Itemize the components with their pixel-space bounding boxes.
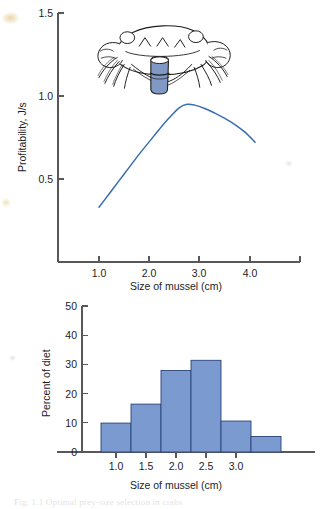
diet-histogram-svg: 50 40 30 20 10 0 Percent of diet 1.0 1.5 bbox=[0, 292, 329, 497]
x-ticklabel-2.0: 2.0 bbox=[142, 267, 157, 279]
histogram-bar bbox=[161, 371, 191, 452]
profitability-chart-svg: 1.5 1.0 0.5 Profitability, J/s 1.0 2.0 3… bbox=[0, 0, 329, 292]
x-ticklabel-1.0: 1.0 bbox=[92, 267, 107, 279]
y-ticklabel-30: 30 bbox=[65, 358, 77, 370]
histogram-bar bbox=[101, 423, 131, 452]
x-ticklabel-3.0: 3.0 bbox=[192, 267, 207, 279]
x-ticklabel-3.0: 3.0 bbox=[229, 460, 244, 472]
diet-x-axis-title: Size of mussel (cm) bbox=[130, 479, 222, 491]
x-ticklabel-1.0: 1.0 bbox=[109, 460, 124, 472]
y-ticklabel-10: 10 bbox=[65, 417, 77, 429]
profitability-y-ticks: 1.5 1.0 0.5 bbox=[38, 7, 64, 185]
profitability-y-axis-title: Profitability, J/s bbox=[16, 102, 28, 172]
profitability-chart-panel: 1.5 1.0 0.5 Profitability, J/s 1.0 2.0 3… bbox=[0, 0, 329, 292]
y-ticklabel-20: 20 bbox=[65, 388, 77, 400]
histogram-bar bbox=[221, 421, 251, 452]
diet-y-ticks: 50 40 30 20 10 0 bbox=[65, 300, 88, 458]
diet-x-ticks: 1.0 1.5 2.0 2.5 3.0 bbox=[109, 452, 244, 472]
y-ticklabel-0.5: 0.5 bbox=[38, 173, 53, 185]
profitability-x-ticks: 1.0 2.0 3.0 4.0 bbox=[92, 256, 258, 279]
x-ticklabel-4.0: 4.0 bbox=[243, 267, 258, 279]
profitability-x-axis-title: Size of mussel (cm) bbox=[130, 280, 222, 292]
x-ticklabel-2.5: 2.5 bbox=[199, 460, 214, 472]
histogram-bar bbox=[131, 404, 161, 452]
y-ticklabel-0: 0 bbox=[71, 446, 77, 458]
histogram-bar bbox=[191, 360, 221, 452]
x-ticklabel-2.0: 2.0 bbox=[169, 460, 184, 472]
y-ticklabel-1.0: 1.0 bbox=[38, 90, 53, 102]
diet-histogram-bars bbox=[101, 360, 281, 452]
y-ticklabel-1.5: 1.5 bbox=[38, 7, 53, 19]
y-ticklabel-40: 40 bbox=[65, 329, 77, 341]
histogram-bar bbox=[251, 437, 281, 452]
profitability-curve bbox=[99, 104, 255, 207]
diet-y-axis-title: Percent of diet bbox=[40, 349, 52, 417]
y-ticklabel-50: 50 bbox=[65, 300, 77, 312]
x-ticklabel-1.5: 1.5 bbox=[139, 460, 154, 472]
figure-caption-partial: Fig. 1.1 Optimal prey-size selection in … bbox=[0, 497, 329, 509]
crab-holding-mussel-icon bbox=[98, 26, 230, 94]
diet-histogram-panel: 50 40 30 20 10 0 Percent of diet 1.0 1.5 bbox=[0, 292, 329, 497]
figure-root: 1.5 1.0 0.5 Profitability, J/s 1.0 2.0 3… bbox=[0, 0, 329, 509]
